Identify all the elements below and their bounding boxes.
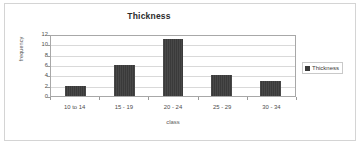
x-axis-title: class [50,119,296,125]
bar[interactable] [211,75,232,96]
x-tick-label: 15 - 19 [99,104,148,110]
legend-label: Thickness [312,65,339,71]
chart-legend: Thickness [302,62,343,74]
chart-title: Thickness [5,11,293,21]
bar[interactable] [114,65,135,96]
plot-wrapper: 024681012 [37,35,296,97]
x-axis-labels: 10 to 1415 - 1920 - 2425 - 2930 - 34 [50,104,296,110]
x-tick-mark [296,97,297,100]
bar-slot [149,36,198,96]
y-axis-title: frequency [18,26,28,72]
x-tick-label: 30 - 34 [247,104,296,110]
x-tick-mark [148,97,149,100]
chart-frame: Thickness frequency 024681012 10 to 1415… [4,3,356,141]
x-axis-ticks [50,97,296,101]
bar-slot [51,36,100,96]
x-tick-mark [247,97,248,100]
bar-slot [100,36,149,96]
bar[interactable] [260,81,281,97]
x-tick-mark [99,97,100,100]
bar[interactable] [65,86,86,96]
bar[interactable] [163,39,184,96]
x-tick-label: 20 - 24 [148,104,197,110]
bar-series [51,36,295,96]
x-tick-mark [50,97,51,100]
bar-slot [246,36,295,96]
legend-swatch-icon [305,66,310,71]
x-tick-label: 25 - 29 [198,104,247,110]
plot-area [50,35,296,97]
x-tick-label: 10 to 14 [50,104,99,110]
x-tick-mark [198,97,199,100]
bar-slot [197,36,246,96]
